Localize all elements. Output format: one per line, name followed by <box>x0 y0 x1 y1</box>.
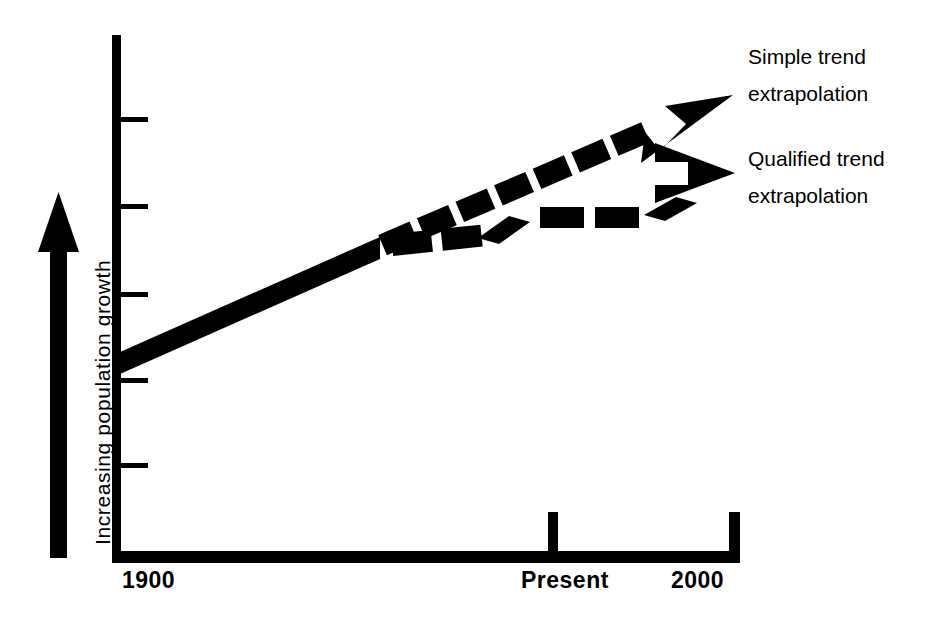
x-tick-label-present: Present <box>521 569 609 592</box>
y-axis-tick <box>118 463 148 468</box>
dash <box>571 139 611 173</box>
y-axis-tick <box>118 378 148 383</box>
x-axis-tick-2000 <box>729 512 740 554</box>
y-axis-tick <box>118 117 148 122</box>
annotation-simple-trend-line1: Simple trend <box>748 46 866 67</box>
x-axis-spine <box>112 551 740 563</box>
annotation-qualified-trend-line1: Qualified trend <box>748 148 885 169</box>
dash <box>540 207 584 228</box>
dash <box>595 207 639 228</box>
y-axis-tick <box>118 292 148 297</box>
x-tick-label-2000: 2000 <box>671 569 724 592</box>
series-simple-trend-extrapolation <box>378 95 733 255</box>
dash <box>455 188 495 222</box>
dash <box>494 172 534 206</box>
dash <box>644 197 697 221</box>
x-tick-label-1900: 1900 <box>122 569 175 592</box>
arrowhead-qualified <box>655 143 735 203</box>
series-historical-trend <box>120 237 380 374</box>
x-axis-ticks <box>548 512 740 554</box>
dash <box>478 216 530 244</box>
x-axis-tick-present <box>548 512 558 554</box>
y-axis-direction-arrow <box>38 192 79 558</box>
y-axis-title: Increasing population growth <box>92 260 113 545</box>
chart-figure: 1900 Present 2000 Increasing population … <box>0 0 927 629</box>
dash <box>391 230 433 256</box>
annotation-simple-trend-line2: extrapolation <box>748 83 868 104</box>
y-axis-tick <box>118 204 148 209</box>
annotation-qualified-trend-line2: extrapolation <box>748 185 868 206</box>
arrowhead-simple <box>641 95 733 163</box>
y-axis-ticks <box>118 117 148 468</box>
dash <box>441 225 483 251</box>
dash <box>533 155 573 189</box>
